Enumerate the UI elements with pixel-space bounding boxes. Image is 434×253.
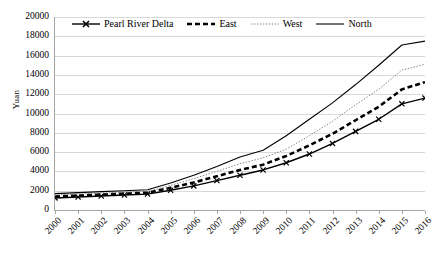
x-axis-tick-labels: 2000200120022003200420052006200720082009… bbox=[0, 0, 434, 253]
line-chart: Yuan 02000400060008000100001200014000160… bbox=[0, 0, 434, 253]
